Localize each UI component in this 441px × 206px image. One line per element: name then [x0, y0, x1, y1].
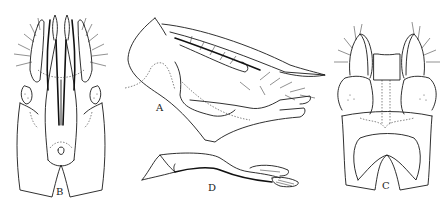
panel-a: A	[120, 0, 330, 150]
panel-b: B	[0, 0, 120, 206]
panel-a-drawing	[120, 0, 330, 150]
panel-a-label: A	[156, 102, 163, 113]
panel-c: C	[330, 0, 441, 206]
panel-d-label: D	[208, 182, 216, 193]
panel-d-drawing	[140, 140, 310, 206]
panel-b-drawing	[0, 0, 120, 206]
panel-c-drawing	[330, 0, 441, 206]
panel-d: D	[140, 140, 310, 206]
panel-b-label: B	[56, 186, 63, 197]
panel-c-label: C	[382, 180, 390, 191]
figure: B A D	[0, 0, 441, 206]
